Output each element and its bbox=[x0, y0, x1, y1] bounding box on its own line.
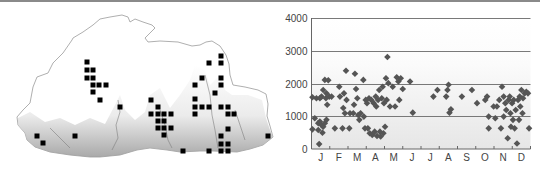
occurrence-marker bbox=[149, 98, 154, 103]
y-tick-label: 1000 bbox=[285, 111, 308, 122]
occurrence-marker bbox=[181, 149, 186, 154]
y-tick-label: 4000 bbox=[285, 13, 308, 24]
occurrence-marker bbox=[104, 83, 109, 88]
occurrence-marker bbox=[207, 105, 212, 110]
elevation-chart: 01000200030004000 JFMAMJJASOND bbox=[270, 0, 545, 170]
occurrence-marker bbox=[219, 134, 224, 139]
occurrence-marker bbox=[162, 119, 167, 124]
x-tick-label: D bbox=[518, 152, 525, 163]
occurrence-marker bbox=[149, 112, 154, 117]
occurrence-marker bbox=[219, 54, 224, 59]
occurrence-marker bbox=[193, 112, 198, 117]
occurrence-marker bbox=[41, 141, 46, 146]
occurrence-marker bbox=[169, 112, 174, 117]
x-tick-label: S bbox=[463, 152, 470, 163]
x-tick-label: J bbox=[318, 152, 323, 163]
occurrence-marker bbox=[219, 76, 224, 81]
x-tick-label: A bbox=[372, 152, 379, 163]
occurrence-marker bbox=[200, 76, 205, 81]
occurrence-marker bbox=[91, 68, 96, 73]
y-tick-label: 0 bbox=[302, 144, 308, 155]
x-tick-label: A bbox=[445, 152, 452, 163]
occurrence-marker bbox=[91, 76, 96, 81]
occurrence-marker bbox=[226, 105, 231, 110]
occurrence-marker bbox=[207, 149, 212, 154]
x-tick-label: M bbox=[389, 152, 397, 163]
occurrence-marker bbox=[193, 105, 198, 110]
occurrence-marker bbox=[162, 126, 167, 131]
occurrence-marker bbox=[226, 142, 231, 147]
x-tick-label: M bbox=[353, 152, 361, 163]
occurrence-marker bbox=[207, 61, 212, 66]
occurrence-marker bbox=[162, 133, 167, 138]
y-tick-label: 3000 bbox=[285, 46, 308, 57]
x-tick-label: F bbox=[336, 152, 342, 163]
occurrence-marker bbox=[162, 112, 167, 117]
occurrence-marker bbox=[169, 126, 174, 131]
occurrence-marker bbox=[219, 142, 224, 147]
occurrence-marker bbox=[219, 105, 224, 110]
occurrence-marker bbox=[156, 105, 161, 110]
occurrence-marker bbox=[226, 112, 231, 117]
occurrence-marker bbox=[156, 119, 161, 124]
occurrence-marker bbox=[98, 98, 103, 103]
occurrence-marker bbox=[219, 83, 224, 88]
occurrence-marker bbox=[156, 126, 161, 131]
occurrence-marker bbox=[226, 127, 231, 132]
x-tick-label: J bbox=[409, 152, 414, 163]
occurrence-marker bbox=[193, 83, 198, 88]
occurrence-marker bbox=[200, 105, 205, 110]
occurrence-marker bbox=[73, 134, 78, 139]
occurrence-marker bbox=[193, 97, 198, 102]
occurrence-marker bbox=[85, 60, 90, 65]
occurrence-marker bbox=[226, 149, 231, 154]
occurrence-marker bbox=[35, 134, 40, 139]
occurrence-marker bbox=[85, 68, 90, 73]
distribution-map bbox=[0, 0, 285, 170]
occurrence-marker bbox=[219, 149, 224, 154]
x-tick-label: J bbox=[428, 152, 433, 163]
occurrence-marker bbox=[91, 83, 96, 88]
x-tick-label: N bbox=[500, 152, 507, 163]
occurrence-marker bbox=[85, 76, 90, 81]
y-tick-labels: 01000200030004000 bbox=[285, 13, 308, 155]
x-tick-label: O bbox=[481, 152, 489, 163]
occurrence-marker bbox=[213, 91, 218, 96]
occurrence-marker bbox=[91, 90, 96, 95]
scatter-plot: 01000200030004000 JFMAMJJASOND bbox=[270, 0, 545, 170]
x-tick-labels: JFMAMJJASOND bbox=[318, 152, 525, 163]
occurrence-marker bbox=[232, 112, 237, 117]
occurrence-marker bbox=[97, 83, 102, 88]
occurrence-marker bbox=[219, 61, 224, 66]
occurrence-marker bbox=[118, 105, 123, 110]
y-tick-label: 2000 bbox=[285, 79, 308, 90]
occurrence-marker bbox=[156, 112, 161, 117]
